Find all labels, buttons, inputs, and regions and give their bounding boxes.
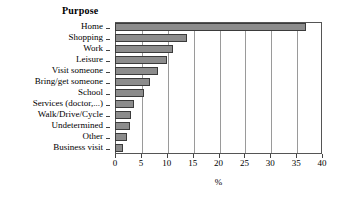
bar	[115, 89, 144, 97]
y-axis-category-labels: HomeShoppingWorkLeisureVisit someoneBrin…	[0, 22, 110, 154]
bar	[115, 67, 158, 75]
y-axis-tick-mark	[106, 94, 110, 95]
page-title: Purpose	[62, 5, 98, 16]
y-axis-tick-label: Bring/get someone	[35, 76, 103, 87]
y-axis-tick-mark	[106, 116, 110, 117]
y-axis-tick-label: Other	[83, 131, 104, 142]
bar-row	[115, 22, 322, 33]
x-axis-tick-label: 25	[240, 158, 249, 168]
bar-row	[115, 55, 322, 66]
bar	[115, 122, 130, 130]
bar-row	[115, 143, 322, 154]
bar-row	[115, 88, 322, 99]
y-axis-tick-label: Home	[81, 21, 103, 32]
bar	[115, 133, 127, 141]
x-axis-tick-label: 15	[188, 158, 197, 168]
bar-row	[115, 99, 322, 110]
bar	[115, 111, 131, 119]
x-axis-tick-label: 10	[162, 158, 171, 168]
bar	[115, 100, 134, 108]
y-axis-tick-mark	[106, 72, 110, 73]
bar-row	[115, 66, 322, 77]
bar-row	[115, 33, 322, 44]
y-axis-tick-mark	[106, 83, 110, 84]
y-axis-tick-label: Shopping	[68, 32, 103, 43]
y-axis-tick-mark	[106, 138, 110, 139]
y-axis-tick-label: Business visit	[53, 142, 103, 153]
x-axis-tick-label: 40	[318, 158, 327, 168]
bar	[115, 23, 306, 31]
y-axis-tick-label: Undetermined	[52, 120, 103, 131]
y-axis-tick-label: Leisure	[76, 54, 103, 65]
y-axis-tick-mark	[106, 50, 110, 51]
bar-row	[115, 44, 322, 55]
y-axis-tick-mark	[106, 149, 110, 150]
bar-row	[115, 121, 322, 132]
y-axis-tick-label: Services (doctor,...)	[33, 98, 103, 109]
y-axis-tick-mark	[106, 61, 110, 62]
x-axis-tick-label: 0	[113, 158, 118, 168]
x-axis-tick-label: 5	[139, 158, 144, 168]
chart-figure: Purpose HomeShoppingWorkLeisureVisit som…	[0, 0, 350, 203]
x-axis-tick-label: 20	[214, 158, 223, 168]
y-axis-tick-mark	[106, 39, 110, 40]
bar	[115, 34, 187, 42]
bar	[115, 45, 173, 53]
x-axis-title: %	[115, 177, 322, 187]
bar-row	[115, 132, 322, 143]
x-axis-tick-label: 35	[292, 158, 301, 168]
y-axis-tick-mark	[106, 28, 110, 29]
x-axis-tick-label: 30	[266, 158, 275, 168]
y-axis-tick-mark	[106, 127, 110, 128]
bar	[115, 144, 123, 152]
x-axis: 0510152025303540	[115, 154, 322, 174]
bar-series	[115, 22, 322, 154]
bar-row	[115, 77, 322, 88]
bar-row	[115, 110, 322, 121]
bar	[115, 56, 167, 64]
bar	[115, 78, 150, 86]
y-axis-tick-label: School	[78, 87, 103, 98]
y-axis-tick-label: Visit someone	[52, 65, 103, 76]
y-axis-tick-mark	[106, 105, 110, 106]
y-axis-tick-label: Work	[83, 43, 103, 54]
y-axis-tick-label: Walk/Drive/Cycle	[38, 109, 103, 120]
